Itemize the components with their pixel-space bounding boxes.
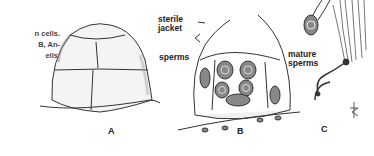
label-line: sperms xyxy=(288,59,318,68)
label-line: jacket xyxy=(158,24,183,33)
antheridium-a xyxy=(52,24,152,112)
label-mature-sperms: mature sperms xyxy=(288,50,318,68)
panel-label-b: B xyxy=(237,126,244,136)
label-sterile-jacket: sterile jacket xyxy=(158,15,183,33)
label-sperms: sperms xyxy=(159,53,189,62)
panel-label-a: A xyxy=(108,126,115,136)
panel-label-c: C xyxy=(321,124,328,134)
antheridia-illustration xyxy=(0,0,374,156)
